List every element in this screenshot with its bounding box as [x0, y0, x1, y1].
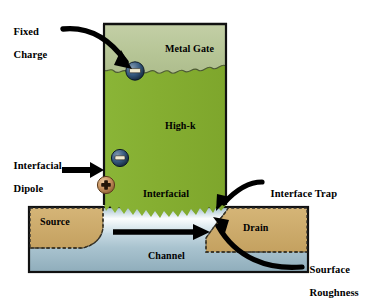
callout-fixed-charge: Fixed Charge [8, 14, 47, 61]
region-label-drain: Drain [243, 222, 269, 233]
callout-interface-trap-line1: Interface Trap [270, 188, 337, 199]
callout-interfacial-dipole-line1: Interfacial [13, 160, 61, 171]
callout-sourface-roughness: Sourface Roughness [304, 252, 359, 299]
callout-interfacial-dipole-line2: Dipole [13, 183, 43, 194]
interfacial-dipole-arrow [62, 162, 104, 178]
source-region [30, 208, 103, 248]
region-label-interfacial: Interfacial [143, 188, 189, 199]
dipole-positive-particle [97, 176, 114, 193]
source-shape [30, 208, 103, 248]
dipole-negative-particle [111, 149, 128, 166]
region-label-source: Source [40, 216, 70, 227]
region-label-metal-gate: Metal Gate [165, 43, 214, 54]
callout-interfacial-dipole: Interfacial Dipole [8, 148, 62, 195]
callout-sourface-roughness-line2: Roughness [309, 287, 358, 298]
callout-interface-trap: Interface Trap [265, 176, 337, 200]
region-label-high-k: High-k [165, 120, 196, 131]
callout-sourface-roughness-line1: Sourface [309, 264, 349, 275]
callout-fixed-charge-line1: Fixed [13, 26, 39, 37]
callout-fixed-charge-line2: Charge [13, 49, 47, 60]
region-label-channel: Channel [148, 250, 185, 261]
